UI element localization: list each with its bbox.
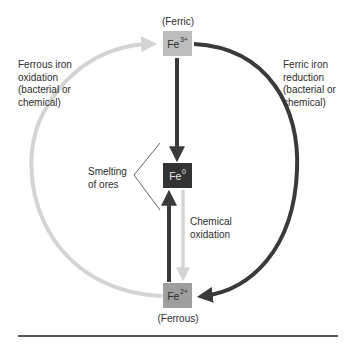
fe0-node: Fe0 (163, 163, 192, 188)
fe0-charge: 0 (182, 168, 186, 175)
fe2-node: Fe2+ (163, 283, 192, 308)
label-line: (bacterial or (283, 84, 336, 97)
chemical-oxidation-label: Chemical oxidation (190, 216, 232, 241)
ferric-reduction-arrow (194, 44, 297, 296)
ferric-reduction-label: Ferric iron reduction (bacterial or chem… (283, 59, 336, 109)
label-line: Ferric iron (283, 59, 336, 72)
fe3-node: Fe3+ (163, 31, 192, 56)
label-line: reduction (283, 72, 336, 85)
ferrous-oxidation-label: Ferrous iron oxidation (bacterial or che… (18, 59, 72, 109)
fe3-base: Fe (167, 38, 179, 50)
bottom-rule (18, 335, 338, 337)
ferrous-caption: (Ferrous) (138, 313, 218, 326)
fe3-charge: 3+ (180, 36, 188, 43)
fe2-charge: 2+ (180, 288, 188, 295)
fe2-base: Fe (167, 290, 179, 302)
label-line: oxidation (190, 229, 232, 242)
label-line: Ferrous iron (18, 59, 72, 72)
label-line: Smelting (88, 166, 127, 179)
label-line: chemical) (283, 97, 336, 110)
ferric-caption: (Ferric) (138, 16, 218, 29)
label-line: of ores (88, 179, 127, 192)
label-line: oxidation (18, 72, 72, 85)
label-line: Chemical (190, 216, 232, 229)
label-line: chemical) (18, 97, 72, 110)
label-line: (bacterial or (18, 84, 72, 97)
fe0-base: Fe (169, 170, 181, 182)
smelting-bracket (134, 143, 160, 210)
smelting-label: Smelting of ores (88, 166, 127, 191)
